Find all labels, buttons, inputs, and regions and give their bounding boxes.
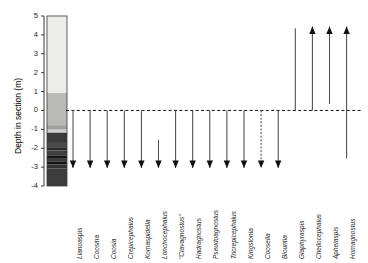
y-axis-tick-label: 3 — [10, 49, 38, 58]
taxon-label: Coosia — [110, 239, 117, 260]
y-axis — [41, 16, 44, 186]
y-axis-title: Depth in section (m) — [13, 78, 23, 154]
taxon-label: Lonchocephalus — [161, 211, 168, 259]
arrowhead-up-icon — [343, 26, 349, 34]
taxon-label: Komaspidella — [144, 219, 151, 259]
taxon-label: Cheilocephalus — [315, 214, 322, 259]
lithology-band — [47, 164, 67, 168]
lithology-band — [47, 93, 67, 125]
taxon-label: Blountia — [281, 235, 288, 259]
lithology-band — [47, 158, 67, 162]
lithology-band — [47, 147, 67, 150]
arrowhead-down-icon — [155, 161, 161, 169]
arrowhead-down-icon — [87, 161, 93, 169]
y-axis-tick-label: 5 — [10, 11, 38, 20]
y-axis-tick-label: 2 — [10, 68, 38, 77]
taxon-label: Coosella — [264, 233, 271, 259]
arrowhead-down-icon — [275, 161, 281, 169]
arrowhead-down-icon — [138, 161, 144, 169]
taxon-label: Pseudoagnostus — [212, 210, 219, 259]
lithology-band — [47, 169, 67, 186]
taxon-label: Aphelaspis — [332, 227, 339, 259]
taxon-label: Coosina — [93, 235, 100, 259]
taxon-label: Crepicephalus — [127, 217, 134, 259]
taxon-label: Llanoaspis — [76, 227, 83, 259]
taxon-label: Kingstonia — [247, 228, 254, 259]
y-axis-tick-label: -4 — [10, 181, 38, 190]
lithology-band — [47, 162, 67, 165]
arrowhead-down-icon — [172, 161, 178, 169]
arrowhead-down-icon — [241, 161, 247, 169]
arrowhead-up-icon — [326, 26, 332, 34]
range-lines — [70, 26, 350, 168]
lithology-band — [47, 125, 67, 130]
lithology-band — [47, 133, 67, 143]
y-axis-tick-label: -3 — [10, 162, 38, 171]
lithology-band — [47, 130, 67, 133]
taxon-label: Glaphyraspis — [298, 221, 305, 260]
arrowhead-down-icon — [104, 161, 110, 169]
arrowhead-up-icon — [309, 26, 315, 34]
arrowhead-down-icon — [70, 161, 76, 169]
taxon-label: Hadragnostus — [195, 218, 202, 259]
taxon-label: "Clavagnostus" — [178, 214, 185, 259]
arrowhead-down-icon — [207, 161, 213, 169]
arrowhead-down-icon — [224, 161, 230, 169]
lithology-band — [47, 155, 67, 158]
arrowhead-down-icon — [121, 161, 127, 169]
arrowhead-down-icon — [258, 161, 264, 169]
arrowhead-down-icon — [190, 161, 196, 169]
y-axis-tick-label: 4 — [10, 30, 38, 39]
lithology-column — [47, 16, 67, 186]
lithology-band — [47, 150, 67, 155]
taxon-label: Tricrepicephalus — [230, 211, 237, 259]
lithology-band — [47, 16, 67, 93]
lithology-band — [47, 143, 67, 147]
taxon-label: Homagnostus — [349, 218, 356, 259]
range-chart-figure: 543210-1-2-3-4Depth in section (m)Llanoa… — [0, 0, 368, 263]
